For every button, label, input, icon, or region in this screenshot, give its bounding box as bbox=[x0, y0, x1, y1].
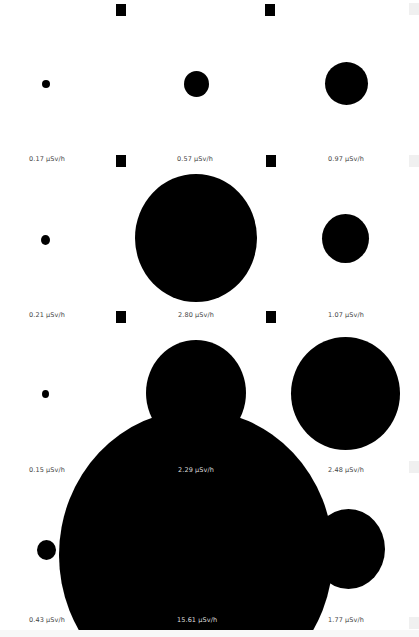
grid-marker bbox=[266, 311, 276, 323]
grid-marker bbox=[409, 155, 419, 167]
grid-marker bbox=[116, 155, 126, 167]
grid-marker bbox=[116, 4, 126, 16]
dose-circle-0-2 bbox=[325, 62, 368, 105]
dose-circle-2-0 bbox=[42, 390, 49, 398]
dose-circle-2-2 bbox=[291, 337, 400, 450]
grid-marker bbox=[409, 617, 419, 629]
dose-rate-grid: 0.17 µSv/h 0.57 µSv/h 0.97 µSv/h 0.21 µS… bbox=[0, 0, 419, 637]
grid-marker bbox=[265, 4, 275, 16]
bottom-edge bbox=[0, 630, 419, 637]
dose-label-0-0: 0.17 µSv/h bbox=[29, 155, 65, 163]
dose-label-1-2: 1.07 µSv/h bbox=[328, 311, 364, 319]
grid-marker bbox=[409, 461, 419, 473]
dose-label-2-1: 2.29 µSv/h bbox=[178, 466, 214, 474]
dose-label-0-2: 0.97 µSv/h bbox=[328, 155, 364, 163]
dose-label-2-0: 0.15 µSv/h bbox=[29, 466, 65, 474]
dose-label-3-0: 0.43 µSv/h bbox=[29, 616, 65, 624]
dose-label-3-2: 1.77 µSv/h bbox=[328, 616, 364, 624]
dose-circle-1-2 bbox=[322, 214, 369, 263]
dose-circle-3-0 bbox=[37, 540, 56, 560]
dose-label-1-1: 2.80 µSv/h bbox=[178, 311, 214, 319]
dose-label-2-2: 2.48 µSv/h bbox=[328, 466, 364, 474]
dose-circle-3-1 bbox=[59, 410, 333, 630]
dose-circle-0-1 bbox=[184, 71, 209, 97]
grid-marker bbox=[409, 3, 419, 15]
dose-circle-0-0 bbox=[42, 80, 50, 88]
grid-marker bbox=[116, 311, 126, 323]
circle-area: 0.17 µSv/h 0.57 µSv/h 0.97 µSv/h 0.21 µS… bbox=[0, 0, 419, 630]
grid-marker bbox=[266, 155, 276, 167]
dose-label-0-1: 0.57 µSv/h bbox=[177, 155, 213, 163]
dose-label-1-0: 0.21 µSv/h bbox=[29, 311, 65, 319]
dose-label-3-1: 15.61 µSv/h bbox=[177, 616, 217, 624]
dose-circle-1-0 bbox=[41, 235, 50, 245]
dose-circle-1-1 bbox=[135, 174, 257, 302]
